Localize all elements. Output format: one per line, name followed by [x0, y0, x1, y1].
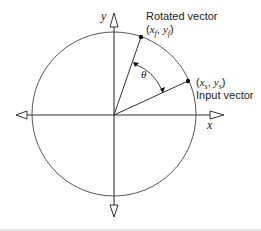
- angle-arc: [134, 64, 162, 90]
- y-axis-arrow-down-icon: [110, 205, 118, 217]
- theta-label: θ: [141, 68, 146, 80]
- rotated-vector-coords: (xf, yf): [146, 23, 174, 40]
- x-axis-arrow-left-icon: [16, 111, 27, 119]
- y-axis-arrow-up-icon: [110, 13, 118, 27]
- y-axis-label: y: [101, 10, 106, 22]
- rotation-diagram: [0, 0, 261, 231]
- rotated-vector-title: Rotated vector: [146, 10, 218, 22]
- rotated-vector-line: [114, 37, 141, 115]
- bottom-divider: [0, 229, 261, 231]
- x-axis-label: x: [207, 119, 212, 131]
- rotated-x-sub: f: [155, 29, 157, 38]
- input-vector-point: [186, 79, 190, 83]
- angle-arc-arrowhead-start-icon: [133, 62, 139, 67]
- input-vector-title: Input vector: [196, 89, 253, 101]
- x-axis-arrow-right-icon: [210, 111, 224, 119]
- input-vector-line: [114, 81, 188, 115]
- rotated-vector-point: [139, 35, 143, 39]
- rotated-y-sub: f: [168, 29, 170, 38]
